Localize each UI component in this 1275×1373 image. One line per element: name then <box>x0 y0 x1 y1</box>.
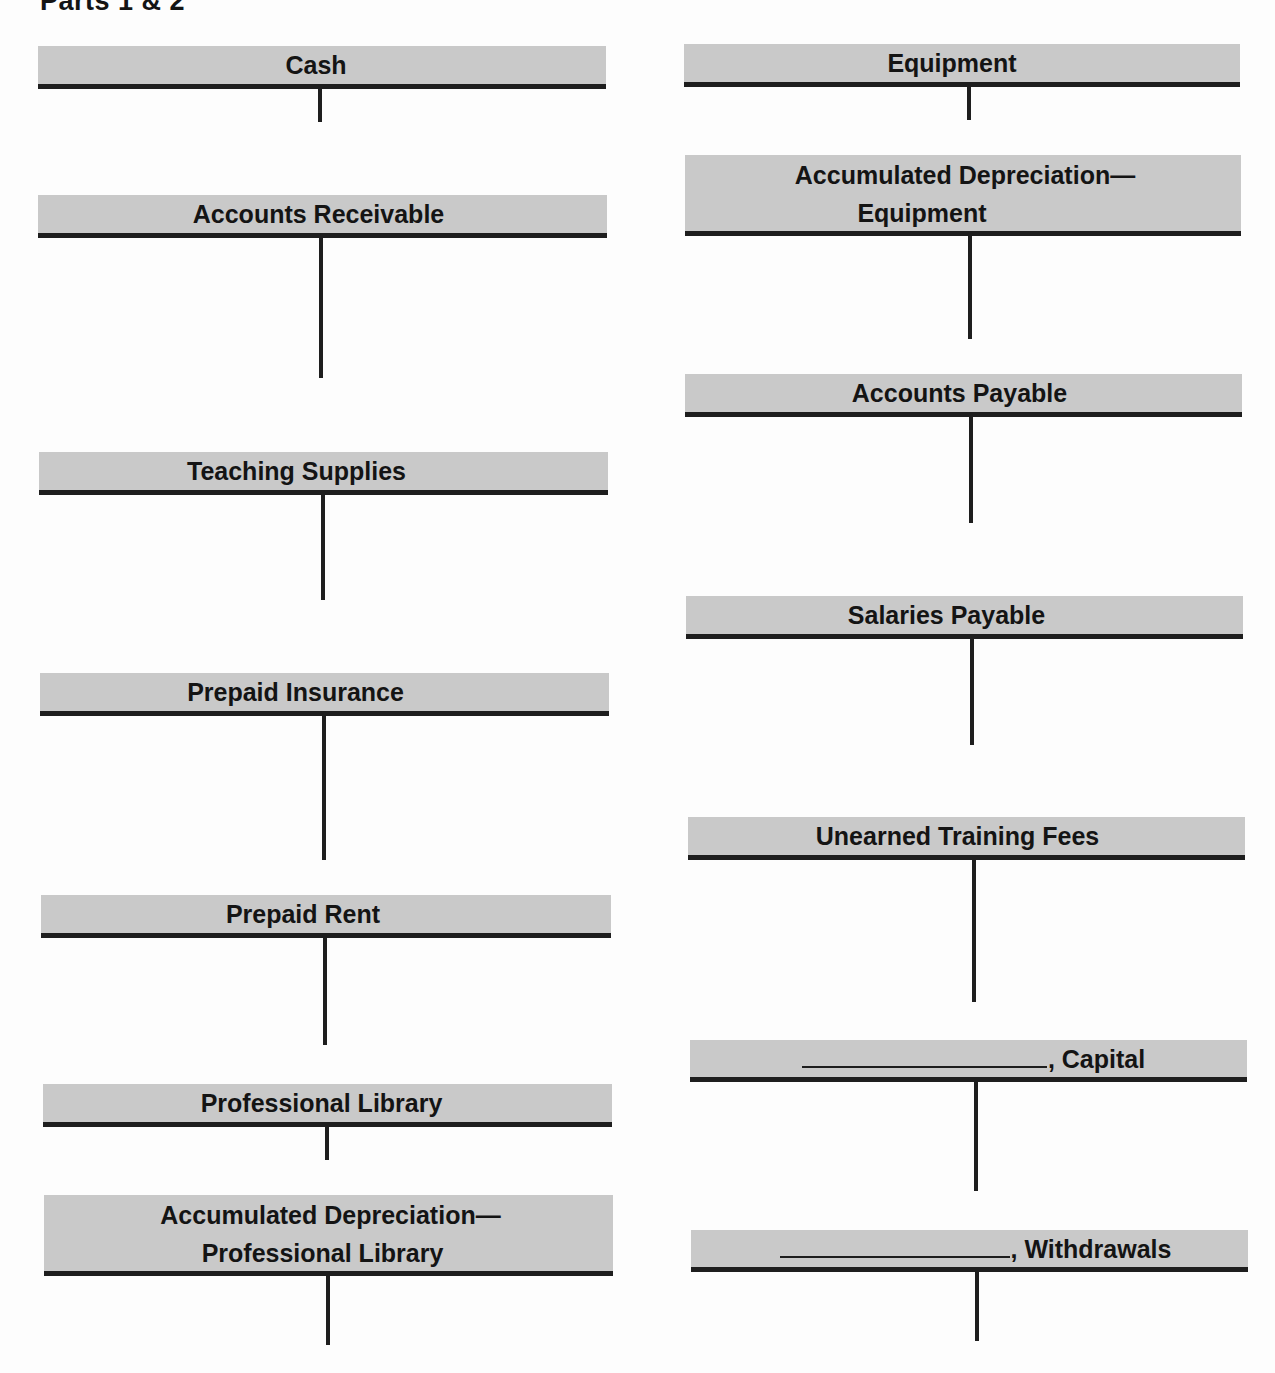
t-account-rule <box>685 231 1241 236</box>
account-title: Cash <box>285 46 346 85</box>
account-title: Accounts Payable <box>852 374 1067 413</box>
t-account-rule <box>38 84 606 89</box>
t-account-stem <box>319 235 323 378</box>
t-account-stem <box>967 84 971 120</box>
account-title-line2: Equipment <box>857 194 986 232</box>
t-account-withdrawals: , Withdrawals <box>691 1230 1248 1342</box>
account-title: Professional Library <box>201 1084 443 1123</box>
t-account-teaching-supplies: Teaching Supplies <box>39 452 608 602</box>
account-header: Accumulated Depreciation— Professional L… <box>44 1195 613 1272</box>
t-account-rule <box>684 82 1240 87</box>
account-header: Accumulated Depreciation— Equipment <box>685 155 1241 232</box>
t-account-equipment: Equipment <box>684 44 1240 122</box>
account-header: , Withdrawals <box>691 1230 1248 1268</box>
account-header: Teaching Supplies <box>39 452 608 491</box>
t-account-stem <box>975 1269 979 1341</box>
account-header: Unearned Training Fees <box>688 817 1245 856</box>
account-title-line1: Accumulated Depreciation— <box>795 156 1135 194</box>
t-account-stem <box>321 492 325 600</box>
t-account-stem <box>323 935 327 1045</box>
account-header: Cash <box>38 46 606 85</box>
t-account-rule <box>686 634 1243 639</box>
t-account-rule <box>688 855 1245 860</box>
owner-name-blank[interactable] <box>780 1232 1010 1258</box>
account-title-suffix: , Capital <box>1048 1045 1145 1073</box>
t-account-stem <box>970 636 974 745</box>
t-account-capital: , Capital <box>690 1040 1247 1193</box>
t-account-rule <box>685 412 1242 417</box>
account-title: Prepaid Insurance <box>187 673 404 712</box>
account-title-line1: Accumulated Depreciation— <box>160 1196 500 1234</box>
account-title: , Withdrawals <box>780 1230 1172 1269</box>
t-account-rule <box>690 1077 1247 1082</box>
account-title: , Capital <box>802 1040 1145 1079</box>
account-title: Equipment <box>887 44 1016 83</box>
t-account-stem <box>968 233 972 339</box>
page-title: Parts 1 & 2 <box>40 0 185 17</box>
t-account-accum-dep-equipment: Accumulated Depreciation— Equipment <box>685 155 1241 341</box>
t-account-cash: Cash <box>38 46 606 126</box>
account-header: Accounts Receivable <box>38 195 607 234</box>
t-account-stem <box>322 713 326 860</box>
account-title-line2: Professional Library <box>202 1234 444 1272</box>
t-account-salaries-payable: Salaries Payable <box>686 596 1243 747</box>
owner-name-blank[interactable] <box>802 1042 1047 1068</box>
t-account-accum-dep-professional-library: Accumulated Depreciation— Professional L… <box>44 1195 613 1347</box>
t-account-stem <box>326 1273 330 1345</box>
t-account-prepaid-insurance: Prepaid Insurance <box>40 673 609 863</box>
account-title: Unearned Training Fees <box>816 817 1099 856</box>
account-header: Prepaid Rent <box>41 895 611 934</box>
account-title: Prepaid Rent <box>226 895 380 934</box>
account-title-suffix: , Withdrawals <box>1011 1235 1172 1263</box>
t-account-rule <box>691 1267 1248 1272</box>
account-header: Equipment <box>684 44 1240 83</box>
t-account-stem <box>318 86 322 122</box>
account-header: , Capital <box>690 1040 1247 1078</box>
account-header: Prepaid Insurance <box>40 673 609 712</box>
account-title: Accounts Receivable <box>193 195 445 234</box>
account-header: Professional Library <box>43 1084 612 1123</box>
t-account-stem <box>325 1124 329 1160</box>
t-account-professional-library: Professional Library <box>43 1084 612 1164</box>
account-header: Accounts Payable <box>685 374 1242 413</box>
t-account-stem <box>969 414 973 523</box>
account-title: Salaries Payable <box>848 596 1045 635</box>
t-account-prepaid-rent: Prepaid Rent <box>41 895 611 1047</box>
t-account-accounts-receivable: Accounts Receivable <box>38 195 607 380</box>
t-account-stem <box>974 1079 978 1191</box>
t-account-unearned-training-fees: Unearned Training Fees <box>688 817 1245 1004</box>
t-account-stem <box>972 857 976 1002</box>
t-account-accounts-payable: Accounts Payable <box>685 374 1242 525</box>
account-title: Teaching Supplies <box>187 452 406 491</box>
account-header: Salaries Payable <box>686 596 1243 635</box>
